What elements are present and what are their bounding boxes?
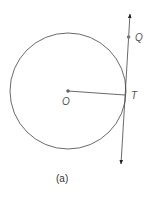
figure-caption: (a) (56, 173, 68, 184)
radius-OT (68, 91, 125, 95)
tangent-diagram: O T Q (a) (0, 0, 150, 197)
label-O: O (62, 96, 70, 107)
point-Q (127, 35, 131, 39)
label-T: T (131, 90, 138, 101)
label-Q: Q (135, 32, 143, 43)
point-O (66, 89, 70, 93)
